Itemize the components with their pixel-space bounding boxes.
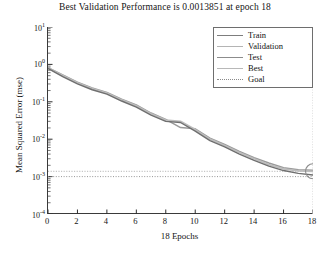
legend-label: Validation [248, 41, 283, 52]
y-axis-title: Mean Squared Error (mse) [14, 50, 24, 200]
legend-item-test[interactable]: Test [214, 52, 312, 63]
y-major-ticks [48, 27, 53, 214]
legend-label: Test [248, 52, 262, 63]
x-tick-label: 6 [125, 216, 145, 226]
x-axis-title: 18 Epochs [47, 231, 312, 241]
x-tick-label: 8 [155, 216, 175, 226]
x-tick-label: 12 [214, 216, 234, 226]
x-tick-label: 4 [96, 216, 116, 226]
y-tick-label: 101 [2, 22, 45, 33]
x-major-ticks [48, 210, 313, 215]
performance-plot-figure: Best Validation Performance is 0.0013851… [0, 0, 330, 271]
x-tick-label: 2 [66, 216, 86, 226]
chart-title: Best Validation Performance is 0.0013851… [0, 2, 330, 12]
legend-item-validation[interactable]: Validation [214, 41, 312, 52]
x-tick-label: 0 [37, 216, 57, 226]
x-tick-label: 14 [243, 216, 263, 226]
x-tick-label: 16 [273, 216, 293, 226]
legend-label: Goal [248, 74, 265, 85]
chart-legend[interactable]: TrainValidationTestBestGoal [213, 27, 313, 88]
legend-label: Best [248, 63, 263, 74]
legend-item-train[interactable]: Train [214, 30, 312, 41]
x-tick-label: 10 [184, 216, 204, 226]
legend-item-goal[interactable]: Goal [214, 74, 312, 85]
legend-item-best[interactable]: Best [214, 63, 312, 74]
x-tick-label: 18 [302, 216, 322, 226]
legend-label: Train [248, 30, 266, 41]
